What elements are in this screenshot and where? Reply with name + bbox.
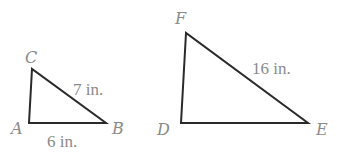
vertex-label-a: A [9,119,23,138]
triangle-def: F D E 16 in. [156,9,328,139]
vertex-label-c: C [25,48,37,67]
vertex-label-f: F [174,9,187,28]
vertex-label-e: E [315,120,328,139]
side-label-ab: 6 in. [47,132,77,151]
triangle-def-outline [181,33,308,123]
triangle-abc: C A B 7 in. 6 in. [9,48,124,151]
side-label-fe: 16 in. [252,59,291,78]
vertex-label-b: B [111,119,124,138]
similar-triangles-diagram: C A B 7 in. 6 in. F D E 16 in. [0,0,337,152]
side-label-cb: 7 in. [73,80,103,99]
vertex-label-d: D [156,120,170,139]
